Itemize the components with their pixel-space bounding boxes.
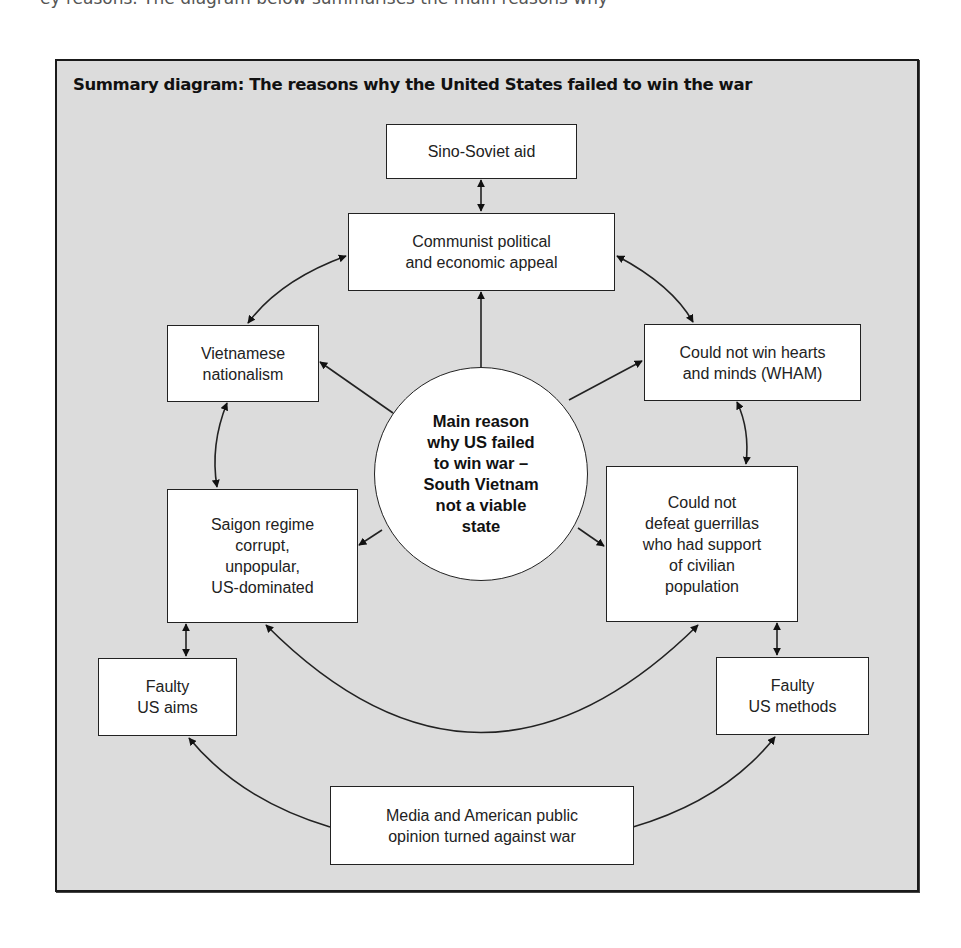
edge-media-aims	[189, 738, 330, 827]
node-media-public-opinion: Media and American public opinion turned…	[330, 786, 634, 865]
node-faulty-us-methods: Faulty US methods	[716, 657, 869, 735]
node-saigon-regime: Saigon regime corrupt, unpopular, US-dom…	[167, 489, 358, 623]
node-communist-appeal: Communist political and economic appeal	[348, 213, 615, 291]
edge-communist-nationalism	[248, 256, 346, 323]
edge-saigon-guerrillas	[266, 625, 698, 733]
edge-center-nationalism	[320, 362, 393, 413]
edge-nationalism-saigon	[215, 403, 227, 487]
edge-center-guerrillas	[578, 528, 604, 546]
edge-communist-wham	[617, 256, 693, 322]
edge-wham-guerrillas	[737, 402, 747, 464]
node-guerrillas: Could not defeat guerrillas who had supp…	[606, 466, 798, 622]
node-faulty-us-aims: Faulty US aims	[98, 658, 237, 736]
node-sino-soviet-aid: Sino-Soviet aid	[386, 124, 577, 179]
node-vietnamese-nationalism: Vietnamese nationalism	[167, 325, 319, 402]
node-hearts-and-minds: Could not win hearts and minds (WHAM)	[644, 324, 861, 401]
edge-media-methods	[633, 737, 775, 827]
central-reason-circle: Main reason why US failed to win war – S…	[374, 367, 588, 581]
edge-center-wham	[569, 361, 642, 400]
edge-center-saigon	[359, 530, 382, 545]
